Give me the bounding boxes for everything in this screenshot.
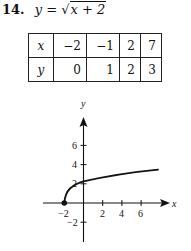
x-tick-label: 2 (100, 208, 105, 219)
closed-dot-icon (62, 200, 68, 206)
function-curve (64, 170, 158, 203)
x-tick-label: 4 (119, 208, 124, 219)
y-axis-label: y (80, 98, 86, 109)
y-tick-label: −2 (67, 217, 78, 228)
y-tick-label: 4 (72, 159, 77, 170)
function-graph: x y −2 2 4 6 6 4 2 −2 (0, 0, 191, 251)
y-tick-label: 6 (72, 140, 77, 151)
x-axis-label: x (171, 198, 177, 209)
x-tick-label: 6 (138, 208, 143, 219)
